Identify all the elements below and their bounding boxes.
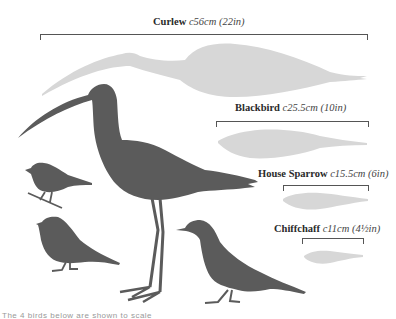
small-bird-on-twig-silhouette (25, 163, 92, 192)
chiffchaff-length-silhouette (304, 251, 363, 264)
curlew-feet (120, 287, 160, 302)
curlew-size-in: (22in) (219, 16, 245, 27)
chiffchaff-length-bracket (302, 238, 364, 244)
chiffchaff-name: Chiffchaff (274, 223, 320, 234)
house-sparrow-name: House Sparrow (258, 168, 328, 179)
chiffchaff-size-in: (4½in) (352, 223, 380, 234)
blackbird-length-silhouette (218, 130, 367, 159)
chiffchaff-label: Chiffchaff c11cm (4½in) (274, 223, 380, 235)
house-sparrow-silhouette (36, 217, 120, 265)
blackbird-length-bracket (216, 121, 369, 127)
curlew-label: Curlew c56cm (22in) (153, 16, 245, 28)
curlew-length-silhouette (42, 44, 367, 98)
curlew-legs (150, 198, 163, 292)
curlew-length-bracket (40, 34, 368, 40)
house-sparrow-length-bracket (283, 185, 369, 191)
chiffchaff-size-cm: c11cm (323, 223, 350, 234)
blackbird-label: Blackbird c25.5cm (10in) (235, 102, 346, 114)
house-sparrow-size-cm: c15.5cm (330, 168, 365, 179)
house-sparrow-length-silhouette (283, 193, 368, 210)
caption: The 4 birds below are shown to scale (2, 311, 152, 319)
blackbird-feet (205, 290, 240, 303)
curlew-name: Curlew (153, 16, 186, 27)
twig (28, 192, 62, 208)
blackbird-size-cm: c25.5cm (283, 102, 318, 113)
house-sparrow-size-in: (6in) (368, 168, 388, 179)
blackbird-name: Blackbird (235, 102, 280, 113)
house-sparrow-label: House Sparrow c15.5cm (6in) (258, 168, 388, 180)
curlew-size-cm: c56cm (189, 16, 216, 27)
blackbird-size-in: (10in) (320, 102, 346, 113)
bird-illustration (0, 0, 396, 319)
house-sparrow-feet (52, 262, 78, 271)
